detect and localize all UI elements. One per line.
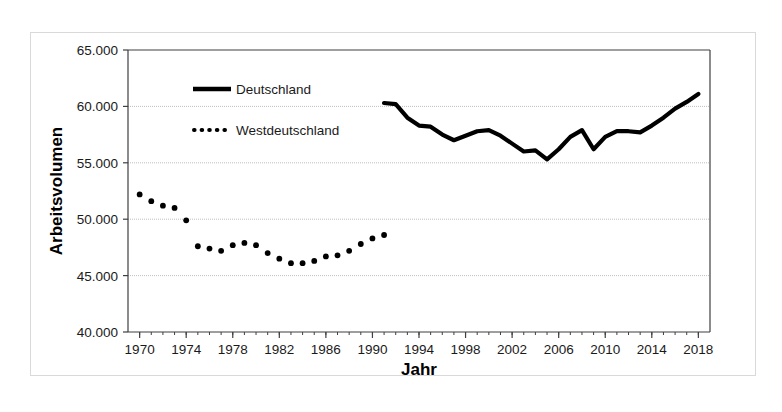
x-tick-label: 1986 [311, 342, 341, 357]
data-point-westdeutschland [311, 258, 317, 264]
x-tick-label: 2014 [637, 342, 668, 357]
x-tick-label: 1982 [264, 342, 294, 357]
x-tick-label: 1978 [218, 342, 248, 357]
y-axis-tick-marks [123, 50, 128, 332]
data-point-westdeutschland [265, 250, 271, 256]
data-point-westdeutschland [288, 260, 294, 266]
data-point-westdeutschland [346, 248, 352, 254]
legend-label-deutschland: Deutschland [236, 82, 311, 97]
x-tick-label: 2010 [590, 342, 620, 357]
x-tick-label: 2006 [544, 342, 574, 357]
y-tick-label: 60.000 [77, 99, 118, 114]
y-axis-title: Arbeitsvolumen [47, 127, 66, 255]
data-point-westdeutschland [276, 256, 282, 262]
data-point-westdeutschland [172, 205, 178, 211]
x-axis-tick-marks [140, 332, 699, 338]
data-point-westdeutschland [195, 243, 201, 249]
x-tick-label: 2018 [683, 342, 713, 357]
data-point-westdeutschland [160, 203, 166, 209]
data-point-westdeutschland [137, 191, 143, 197]
y-axis-tick-labels: 40.00045.00050.00055.00060.00065.000 [77, 43, 118, 340]
data-point-westdeutschland [300, 260, 306, 266]
chart-figure: 40.00045.00050.00055.00060.00065.000 197… [0, 0, 782, 412]
data-point-westdeutschland [218, 248, 224, 254]
data-point-westdeutschland [358, 241, 364, 247]
y-tick-label: 45.000 [77, 269, 118, 284]
line-chart: 40.00045.00050.00055.00060.00065.000 197… [0, 0, 782, 412]
data-point-westdeutschland [323, 254, 329, 260]
data-point-westdeutschland [207, 246, 213, 252]
x-tick-label: 1970 [125, 342, 155, 357]
y-tick-label: 40.000 [77, 325, 118, 340]
plot-background [128, 50, 710, 332]
data-point-westdeutschland [253, 242, 259, 248]
data-point-westdeutschland [335, 252, 341, 258]
data-point-westdeutschland [370, 235, 376, 241]
y-tick-label: 65.000 [77, 43, 118, 58]
data-point-westdeutschland [381, 232, 387, 238]
x-tick-label: 1990 [357, 342, 387, 357]
data-point-westdeutschland [242, 240, 248, 246]
x-axis-tick-labels: 1970197419781982198619901994199820022006… [125, 342, 714, 357]
y-tick-label: 55.000 [77, 156, 118, 171]
y-tick-label: 50.000 [77, 212, 118, 227]
x-tick-label: 1994 [404, 342, 435, 357]
legend-label-westdeutschland: Westdeutschland [236, 123, 339, 138]
data-point-westdeutschland [183, 217, 189, 223]
x-tick-label: 1998 [451, 342, 481, 357]
data-point-westdeutschland [148, 198, 154, 204]
x-tick-label: 1974 [171, 342, 202, 357]
x-axis-title: Jahr [401, 360, 437, 379]
data-point-westdeutschland [230, 242, 236, 248]
x-tick-label: 2002 [497, 342, 527, 357]
